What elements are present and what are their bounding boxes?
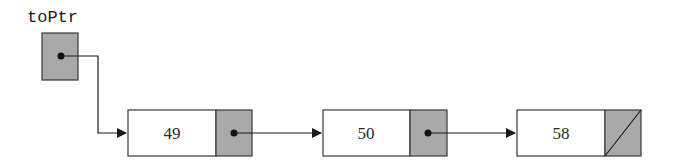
node-value: 58 bbox=[553, 124, 570, 143]
linked-list-diagram: toPtr 49 50 58 bbox=[0, 0, 674, 167]
node-value: 50 bbox=[358, 124, 375, 143]
list-node-3: 58 bbox=[517, 110, 641, 156]
head-pointer-label: toPtr bbox=[27, 8, 78, 27]
node-value: 49 bbox=[164, 124, 181, 143]
list-node-1: 49 bbox=[128, 110, 252, 156]
